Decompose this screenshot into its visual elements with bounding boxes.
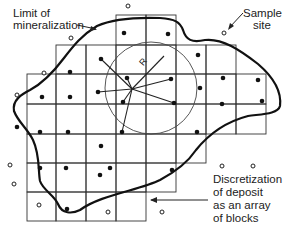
radius-label: R: [137, 56, 149, 68]
mineral-deposit-diagram: R: [0, 0, 286, 226]
discret-label-line2: of deposit: [213, 186, 264, 198]
limit-of-mineralization-label: Limit of mineralization: [13, 7, 97, 31]
search-circle: [105, 42, 197, 134]
limit-label-line2: mineralization: [13, 19, 84, 31]
discret-label-line4: of blocks: [213, 212, 259, 224]
limit-label-line1: Limit of: [13, 7, 51, 19]
sample-site-label: Sample site: [228, 7, 282, 31]
discret-arrowhead-icon: [150, 197, 157, 203]
radial-lines: [98, 56, 174, 132]
sample-label-line1: Sample: [243, 7, 282, 19]
discret-label-line1: Discretization: [213, 173, 282, 185]
sample-label-line2: site: [253, 19, 271, 31]
discretization-label: Discretization of deposit as an array of…: [150, 173, 282, 224]
discret-label-line3: as an array: [213, 199, 271, 211]
